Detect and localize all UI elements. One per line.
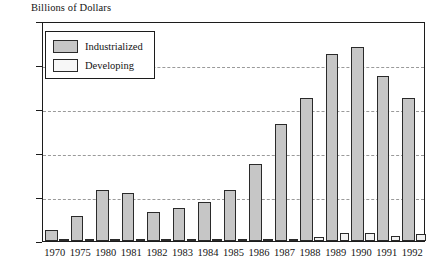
bar-developing (238, 239, 248, 241)
bar-developing (110, 239, 120, 241)
bar-industrialized (71, 216, 84, 241)
bar-industrialized (326, 54, 339, 241)
bar-chart: Billions of Dollars 050100150200250 1970… (0, 0, 436, 272)
bar-industrialized (224, 190, 237, 241)
bar-developing (340, 233, 350, 241)
bar-industrialized (45, 230, 58, 241)
bar-industrialized (351, 47, 364, 241)
x-tick-label: 1992 (396, 247, 428, 258)
legend-item-industrialized: Industrialized (53, 38, 143, 54)
bar-industrialized (96, 190, 109, 241)
y-tick-mark (36, 22, 42, 23)
y-tick-mark (36, 242, 42, 243)
bar-developing (314, 237, 324, 241)
legend-swatch-developing (53, 59, 78, 72)
y-tick-mark (36, 110, 42, 111)
y-tick-mark (36, 66, 42, 67)
bar-developing (212, 239, 222, 241)
y-tick-mark (36, 154, 42, 155)
bar-developing (391, 236, 401, 241)
bar-developing (161, 239, 171, 241)
bar-developing (187, 239, 197, 241)
bar-developing (59, 239, 69, 241)
legend-item-developing: Developing (53, 57, 134, 73)
bar-industrialized (402, 98, 415, 241)
bar-industrialized (377, 76, 390, 241)
bar-developing (416, 234, 426, 241)
bar-industrialized (275, 124, 288, 241)
bar-developing (136, 239, 146, 241)
bar-developing (365, 233, 375, 241)
bar-industrialized (122, 193, 135, 241)
chart-legend: Industrialized Developing (45, 31, 155, 79)
legend-label-industrialized: Industrialized (85, 41, 143, 52)
bar-industrialized (300, 98, 313, 241)
legend-swatch-industrialized (53, 40, 78, 53)
bar-industrialized (198, 202, 211, 241)
bar-developing (289, 239, 299, 241)
bar-developing (85, 239, 95, 241)
y-tick-mark (36, 198, 42, 199)
bar-industrialized (173, 208, 186, 241)
bar-industrialized (249, 164, 262, 241)
bar-developing (263, 239, 273, 241)
bar-industrialized (147, 212, 160, 241)
chart-title: Billions of Dollars (31, 2, 111, 13)
legend-label-developing: Developing (85, 60, 134, 71)
